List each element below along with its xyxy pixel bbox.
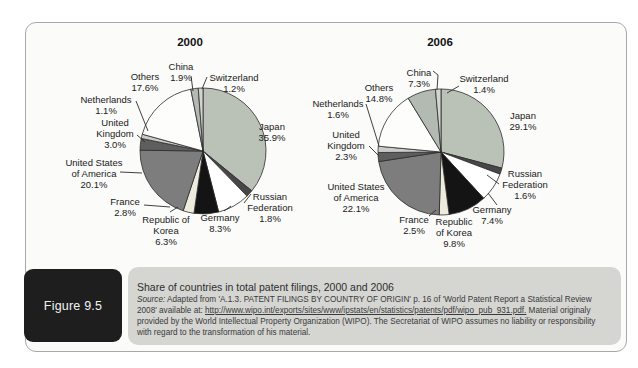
chart-title-2006: 2006 (390, 36, 490, 48)
source-url-link[interactable]: http://www.wipo.int/exports/sites/www/ip… (205, 306, 526, 315)
figure-number-box: Figure 9.5 (24, 269, 122, 342)
leader-line-netherlands-2006 (366, 104, 379, 146)
leader-line-france-2000 (144, 205, 170, 207)
leader-line-china-2006 (433, 71, 438, 90)
leader-line-republic-of-korea-2000 (170, 207, 178, 212)
leader-line-united-states-of-america-2000 (120, 172, 142, 173)
pie-slice-united-states-of-america-2006 (379, 152, 441, 215)
caption-box: Share of countries in total patent filin… (128, 267, 621, 345)
source-label: Source: (137, 295, 165, 304)
caption-title: Share of countries in total patent filin… (137, 281, 610, 293)
leader-line-germany-2006 (488, 193, 497, 205)
chart-title-2000: 2000 (140, 36, 240, 48)
figure-number-label: Figure 9.5 (44, 299, 102, 313)
leader-line-netherlands-2000 (136, 101, 148, 131)
leader-line-switzerland-2000 (202, 77, 207, 89)
caption-source: Source: Adapted from 'A.1.3. PATENT FILI… (137, 295, 610, 339)
figure-9-5-scan: 2000 2006 Japan35.9%RussianFederation1.8… (0, 0, 638, 368)
leader-line-united-kingdom-2006 (369, 146, 379, 156)
